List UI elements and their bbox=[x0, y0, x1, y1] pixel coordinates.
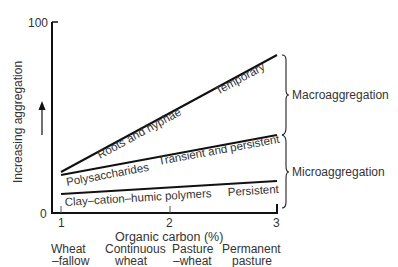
x-tick-label-3: 3 bbox=[273, 216, 280, 230]
microaggregation-brace bbox=[282, 135, 289, 208]
category-1-line2: –fallow bbox=[52, 254, 90, 267]
y-tick-label-100: 100 bbox=[28, 16, 48, 30]
series-polysaccharides-label: Polysaccharides bbox=[65, 161, 150, 188]
y-axis-label: Increasing aggregation bbox=[11, 61, 25, 183]
series-transient-persistent-label: Transient and persistent bbox=[157, 133, 281, 167]
x-tick-label-1: 1 bbox=[58, 216, 65, 230]
series-temporary-label: Temporary bbox=[213, 60, 267, 97]
aggregation-chart: 100 0 1 2 3 Increasing aggregation Organ… bbox=[0, 0, 398, 267]
x-tick-label-2: 2 bbox=[166, 216, 173, 230]
macroaggregation-label: Macroaggregation bbox=[292, 88, 389, 102]
y-tick-label-0: 0 bbox=[40, 207, 47, 221]
microaggregation-label: Microaggregation bbox=[292, 165, 385, 179]
category-4-line2: pasture bbox=[232, 254, 272, 267]
category-2-line2: wheat bbox=[114, 254, 148, 267]
series-persistent-label: Persistent bbox=[227, 183, 280, 198]
arrow-up-icon bbox=[39, 101, 46, 110]
category-3-line2: –wheat bbox=[173, 254, 212, 267]
macroaggregation-brace bbox=[282, 55, 289, 135]
